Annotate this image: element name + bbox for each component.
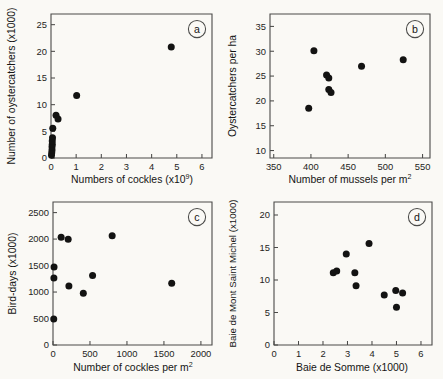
data-point xyxy=(400,56,407,63)
x-tick-label: 1 xyxy=(296,348,301,359)
x-tick-label: 2 xyxy=(320,348,325,359)
y-tick-label: 30 xyxy=(256,46,266,57)
y-axis-title: Baie de Mont Saint Michel (x1000) xyxy=(227,199,238,347)
data-point xyxy=(49,134,56,141)
data-point xyxy=(393,304,400,311)
plot-frame xyxy=(51,14,212,158)
x-axis-title: Baie de Somme (x1000) xyxy=(296,362,408,373)
y-tick-label: 5 xyxy=(265,307,270,318)
data-point xyxy=(168,44,175,51)
x-tick-label: 2000 xyxy=(190,348,211,359)
data-point xyxy=(305,105,312,112)
data-point xyxy=(353,282,360,289)
data-point xyxy=(351,269,358,276)
x-tick-label: 2 xyxy=(99,161,104,172)
data-point-series xyxy=(305,47,407,112)
panel-label-text: c xyxy=(194,211,200,223)
x-tick-label: 4 xyxy=(149,161,154,172)
y-axis-title: Number of oystercatchers (x1000) xyxy=(6,7,17,164)
data-point xyxy=(58,234,65,241)
panel-d-plot: 012345605101520Baie de Somme (x1000)Baie… xyxy=(221,190,442,379)
x-tick-label: 0 xyxy=(50,348,55,359)
y-tick-label: 10 xyxy=(37,99,47,110)
y-tick-label: 500 xyxy=(33,313,49,324)
y-axis-title: Bird-days (x1000) xyxy=(7,232,18,314)
y-tick-label: 20 xyxy=(256,95,266,106)
y-tick-label: 0 xyxy=(42,152,47,163)
x-tick-label: 4 xyxy=(369,348,374,359)
data-point xyxy=(65,282,72,289)
y-tick-label: 0 xyxy=(44,339,49,350)
data-point xyxy=(358,63,365,70)
data-point xyxy=(49,125,56,132)
panel-d-montsaintmichel-vs-somme: 012345605101520Baie de Somme (x1000)Baie… xyxy=(221,190,442,379)
data-point xyxy=(381,291,388,298)
panel-a-plot: 01234560510152025Numbers of cockles (x10… xyxy=(0,0,221,189)
data-point-series xyxy=(50,232,175,322)
panel-label-text: b xyxy=(412,23,418,35)
panel-b-oystercatchers-vs-mussels: 350400450500550101520253035Number of mus… xyxy=(221,0,442,189)
panel-label-text: d xyxy=(414,211,420,223)
x-tick-label: 0 xyxy=(271,348,276,359)
data-point xyxy=(109,232,116,239)
x-axis-title: Number of mussels per m2 xyxy=(289,173,412,185)
data-point-series xyxy=(48,44,175,159)
plot-frame xyxy=(270,14,430,158)
x-tick-label: 3 xyxy=(345,348,350,359)
panel-c-birddays-vs-cockles: 050010001500200005001000150020002500Numb… xyxy=(0,190,221,379)
y-tick-label: 10 xyxy=(260,274,270,285)
x-tick-label: 5 xyxy=(174,161,179,172)
data-point xyxy=(168,280,175,287)
x-tick-label: 1000 xyxy=(117,348,138,359)
y-tick-label: 10 xyxy=(256,145,266,156)
y-tick-label: 15 xyxy=(256,120,266,131)
four-panel-scatter-figure: 01234560510152025Numbers of cockles (x10… xyxy=(0,0,443,379)
data-point xyxy=(333,267,340,274)
data-point xyxy=(366,240,373,247)
plot-frame xyxy=(53,202,212,345)
data-point xyxy=(392,287,399,294)
data-point xyxy=(325,75,332,82)
data-point xyxy=(73,92,80,99)
x-tick-label: 350 xyxy=(266,161,282,172)
y-tick-label: 2500 xyxy=(28,207,49,218)
data-point xyxy=(51,263,58,270)
x-tick-label: 6 xyxy=(418,348,423,359)
panel-a-oystercatchers-vs-cockles: 01234560510152025Numbers of cockles (x10… xyxy=(0,0,221,189)
y-tick-label: 25 xyxy=(256,70,266,81)
y-tick-label: 5 xyxy=(42,126,47,137)
x-tick-label: 5 xyxy=(394,348,399,359)
x-tick-label: 1 xyxy=(74,161,79,172)
y-tick-label: 2000 xyxy=(28,233,49,244)
x-axis-title: Numbers of cockles (x109) xyxy=(71,173,193,185)
y-tick-label: 1000 xyxy=(28,286,49,297)
data-point xyxy=(50,275,57,282)
y-tick-label: 0 xyxy=(265,339,270,350)
y-tick-label: 15 xyxy=(37,72,47,83)
y-tick-label: 20 xyxy=(37,46,47,57)
panel-b-plot: 350400450500550101520253035Number of mus… xyxy=(221,0,442,189)
y-tick-label: 35 xyxy=(256,21,266,32)
panel-label-text: a xyxy=(194,23,200,35)
x-tick-label: 400 xyxy=(303,161,319,172)
panel-c-plot: 050010001500200005001000150020002500Numb… xyxy=(0,190,221,379)
data-point xyxy=(89,272,96,279)
data-point xyxy=(80,290,87,297)
x-tick-label: 6 xyxy=(199,161,204,172)
data-point xyxy=(50,316,57,323)
data-point xyxy=(310,47,317,54)
y-tick-label: 1500 xyxy=(28,260,49,271)
x-tick-label: 500 xyxy=(82,348,98,359)
data-point xyxy=(65,236,72,243)
x-tick-label: 1500 xyxy=(154,348,175,359)
x-tick-label: 3 xyxy=(124,161,129,172)
x-axis-title: Number of cockles per m2 xyxy=(73,361,193,373)
data-point xyxy=(399,290,406,297)
y-tick-label: 15 xyxy=(260,242,270,253)
y-axis-title: Oystercatchers per ha xyxy=(227,35,238,137)
data-point xyxy=(55,116,62,123)
data-point xyxy=(328,89,335,96)
x-tick-label: 0 xyxy=(48,161,53,172)
data-point-series xyxy=(330,240,406,311)
y-tick-label: 20 xyxy=(260,209,270,220)
